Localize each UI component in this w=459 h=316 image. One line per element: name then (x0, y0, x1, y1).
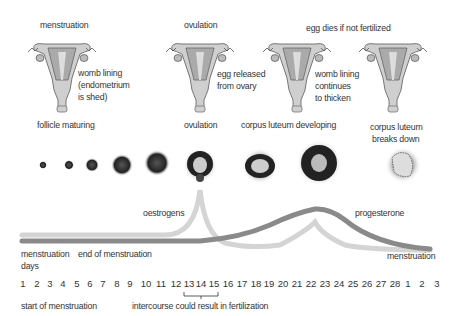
start-of-menstruation-label: start of menstruation (21, 300, 97, 311)
day-tick: 28 (390, 278, 401, 289)
day-tick: 26 (362, 278, 373, 289)
stage-bottom-label: breaks down (372, 133, 420, 144)
oestrogens-label: oestrogens (143, 207, 184, 218)
stage-side-label: from ovary (217, 80, 256, 91)
stage-side-label: (endometrium (78, 79, 130, 90)
days-label: days (21, 260, 39, 271)
diagram-graphics (0, 0, 459, 316)
day-tick: 12 (171, 278, 182, 289)
day-tick: 15 (209, 278, 220, 289)
stage-side-label: continues (315, 80, 351, 91)
stage-side-label: is shed) (78, 91, 107, 102)
menstruation-start-label: menstruation (21, 248, 69, 259)
fertile-window-label: intercourse could result in fertilizatio… (132, 300, 268, 311)
day-tick: 20 (278, 278, 289, 289)
day-tick: 9 (127, 278, 132, 289)
stage-side-label: womb lining (78, 67, 122, 78)
day-tick: 16 (223, 278, 234, 289)
end-of-menstruation-label: end of menstruation (78, 248, 152, 259)
day-tick: 19 (264, 278, 275, 289)
day-tick: 25 (348, 278, 359, 289)
hormone-curves (22, 190, 430, 250)
progesterone-label: progesterone (355, 207, 404, 218)
day-tick: 1 (405, 278, 410, 289)
day-tick: 1 (20, 278, 25, 289)
day-tick: 21 (292, 278, 303, 289)
day-tick: 18 (251, 278, 262, 289)
follicle-sequence (39, 140, 421, 186)
day-tick: 13 (184, 278, 195, 289)
stage-side-label: womb lining (315, 68, 359, 79)
fertile-window-bracket (184, 292, 218, 299)
day-tick: 7 (100, 278, 105, 289)
day-tick: 6 (87, 278, 92, 289)
day-tick: 22 (306, 278, 317, 289)
stage-bottom-label: follicle maturing (37, 119, 95, 130)
day-tick: 8 (114, 278, 119, 289)
stage-bottom-label: corpus luteum developing (241, 119, 336, 130)
day-tick: 17 (237, 278, 248, 289)
day-tick: 4 (60, 278, 65, 289)
day-tick: 5 (74, 278, 79, 289)
stage-top-label: egg dies if not fertilized (306, 22, 391, 33)
uterus-illustration-breakdown (359, 44, 427, 112)
day-tick: 2 (419, 278, 424, 289)
day-tick: 14 (196, 278, 207, 289)
stage-bottom-label: corpus luteum (370, 121, 423, 132)
day-tick: 24 (334, 278, 345, 289)
day-tick: 3 (434, 278, 439, 289)
stage-bottom-label: ovulation (184, 119, 217, 130)
day-tick: 3 (47, 278, 52, 289)
day-tick: 27 (376, 278, 387, 289)
day-tick: 2 (34, 278, 39, 289)
stage-top-label: ovulation (184, 19, 217, 30)
day-tick: 23 (320, 278, 331, 289)
day-tick: 10 (141, 278, 152, 289)
stage-top-label: menstruation (40, 19, 88, 30)
stage-side-label: egg released (217, 68, 265, 79)
stage-side-label: to thicken (315, 92, 351, 103)
menstruation-end-label: menstruation (387, 250, 435, 261)
day-axis: 1 2 3 4 5 6 7 8 9 10 11 12 13 14 15 16 1… (0, 278, 459, 290)
day-tick: 11 (156, 278, 166, 289)
